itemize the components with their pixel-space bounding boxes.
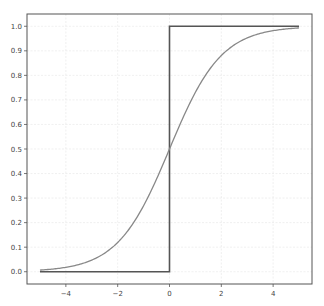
y-tick-label: 0.1 bbox=[11, 244, 22, 252]
y-tick-label: 0.9 bbox=[11, 47, 22, 55]
x-tick-label: 0 bbox=[167, 290, 171, 298]
y-tick-label: 1.0 bbox=[11, 23, 22, 31]
y-tick-label: 0.4 bbox=[11, 170, 23, 178]
y-axis-ticks: 0.00.10.20.30.40.50.60.70.80.91.0 bbox=[11, 23, 27, 276]
x-tick-label: −2 bbox=[113, 290, 123, 298]
y-tick-label: 0.6 bbox=[11, 121, 23, 129]
x-axis-ticks: −4−2024 bbox=[61, 284, 276, 298]
y-tick-label: 0.3 bbox=[11, 195, 22, 203]
chart: −4−2024 0.00.10.20.30.40.50.60.70.80.91.… bbox=[0, 0, 324, 306]
y-tick-label: 0.8 bbox=[11, 72, 22, 80]
x-tick-label: 2 bbox=[219, 290, 223, 298]
x-tick-label: 4 bbox=[271, 290, 276, 298]
x-tick-label: −4 bbox=[61, 290, 72, 298]
y-tick-label: 0.5 bbox=[11, 146, 22, 154]
y-tick-label: 0.7 bbox=[11, 96, 22, 104]
y-tick-label: 0.0 bbox=[11, 268, 22, 276]
series-lines bbox=[40, 26, 299, 271]
y-tick-label: 0.2 bbox=[11, 219, 22, 227]
